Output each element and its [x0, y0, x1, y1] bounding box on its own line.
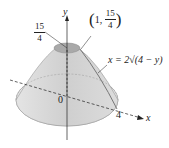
- fraction-denominator: 4: [105, 20, 116, 30]
- point-label: ( 1, 15 4 ): [89, 9, 121, 30]
- fraction-numerator: 15: [34, 22, 45, 33]
- point-leader-line: [81, 36, 91, 49]
- point-close-paren: ): [116, 11, 122, 28]
- point-y-fraction: 15 4: [105, 9, 116, 30]
- x-axis-label: x: [146, 113, 150, 123]
- x-intercept-label: 4: [116, 110, 121, 120]
- y-axis-label: y: [63, 7, 67, 17]
- curve-equation-label: x = 2√(4 − y): [108, 55, 163, 65]
- solid-of-revolution-diagram: [0, 0, 169, 148]
- curve-leader-line: [98, 65, 107, 73]
- origin-label: 0: [58, 95, 63, 105]
- x-axis-arrow-icon: [137, 115, 144, 120]
- fraction-denominator: 4: [34, 33, 45, 43]
- fraction-numerator: 15: [105, 9, 116, 20]
- top-height-fraction: 15 4: [34, 22, 45, 43]
